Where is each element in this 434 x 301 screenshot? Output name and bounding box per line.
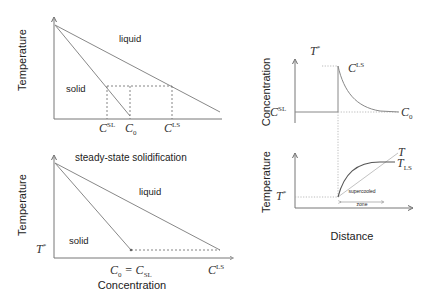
solidus-line <box>55 163 131 250</box>
liquid-label: liquid <box>139 186 161 197</box>
solid-label: solid <box>69 235 89 246</box>
phase-diagram-bottom: steady-state solidification Temperature … <box>16 152 232 291</box>
t-star-label: T* <box>310 44 321 58</box>
c-sl-label: CSL <box>270 105 286 119</box>
t-star-label: T* <box>36 242 47 256</box>
solidification-diagram: Temperature liquid solid CSL C0 CLS stea… <box>0 0 434 301</box>
c0-point <box>130 249 133 252</box>
diagram-title: steady-state solidification <box>75 152 187 163</box>
y-axis-label: Temperature <box>260 151 272 213</box>
solid-label: solid <box>66 83 86 94</box>
x-axis-label: Distance <box>331 230 374 242</box>
y-axis-label: Temperature <box>16 174 28 236</box>
temperature-profile: Temperature T TLS T* supercooled zone Di… <box>260 145 412 242</box>
liquid-label: liquid <box>119 33 141 44</box>
y-axis-label: Temperature <box>16 29 28 91</box>
c0-label: C0 <box>401 105 413 121</box>
x-axis-label: Concentration <box>98 279 167 291</box>
c-ls-label: CLS <box>208 263 224 277</box>
t-star-label: T* <box>276 189 287 203</box>
c-ls-label: CLS <box>348 61 364 75</box>
concentration-profile: Concentration T* CLS CSL C0 <box>260 44 413 197</box>
c-ls-label: CLS <box>164 121 180 135</box>
c-sl-label: CSL <box>99 121 115 135</box>
phase-diagram-top: Temperature liquid solid CSL C0 CLS <box>16 19 222 137</box>
zone-label: zone <box>357 201 368 207</box>
c0-label: C0 <box>125 121 137 137</box>
c0-equals-csl-label: C0 = CSL <box>110 263 152 279</box>
supercooled-label: supercooled <box>348 188 375 194</box>
